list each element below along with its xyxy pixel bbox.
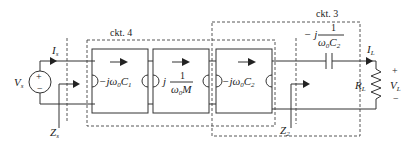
capacitor-prefix: − j [304,28,317,40]
source-current-label: Is [51,44,59,58]
block3-label: −jω0C2 [222,75,255,89]
zs-label: Zs [50,126,59,140]
source-voltage-label: Vs [14,76,24,90]
load-current-label: IL [366,43,375,57]
load-resistor [371,69,381,99]
source-current-arrow [50,57,57,65]
circuit-diagram: + − Vs Is Zs ckt. 4 ckt. 3 −jω0C1 j 1 ω0… [0,0,416,147]
zs-arrow [73,80,80,88]
capacitor-numerator: 1 [331,22,336,33]
capacitor-denominator: ω0C2 [318,36,341,50]
block2-arrow [182,58,190,66]
block-2: j 1 ω0M [153,49,209,113]
load-current-arrow [366,57,373,65]
load-plus: + [392,65,398,76]
series-capacitor [326,53,332,69]
ckt4-label: ckt. 4 [110,27,132,38]
z2-label: Z2 [280,124,290,138]
z2-arrow [303,80,310,88]
source-plus: + [36,71,42,82]
block2-denominator: ω0M [171,83,192,97]
load-minus: − [393,93,399,104]
load-voltage-label: VL [390,79,401,93]
block-3: −jω0C2 [216,49,272,113]
block1-arrow [120,58,128,66]
block1-label: −jω0C1 [99,75,132,89]
block2-prefix: j [161,75,166,87]
block-1: −jω0C1 [92,49,148,113]
voltage-source: + − [29,71,51,94]
ckt3-label: ckt. 3 [316,8,338,19]
block2-numerator: 1 [180,70,185,81]
source-minus: − [37,83,43,94]
load-resistor-label: RL [354,79,366,93]
block3-arrow [248,58,256,66]
